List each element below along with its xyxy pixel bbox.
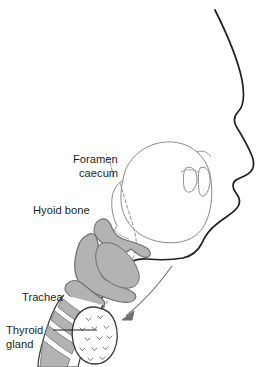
anatomy-diagram: Foramen caecum Hyoid bone Trachea Thyroi… — [0, 0, 260, 367]
tongue-outline — [109, 142, 212, 245]
anatomical-figure: Foramen caecum Hyoid bone Trachea Thyroi… — [0, 0, 260, 367]
label-foramen-caecum-line1: Foramen — [73, 153, 118, 165]
label-hyoid-bone: Hyoid bone — [33, 204, 90, 216]
label-thyroid-gland-line2: gland — [6, 338, 33, 350]
label-trachea: Trachea — [22, 291, 63, 303]
label-foramen-caecum-line2: caecum — [79, 167, 118, 179]
thyroid-gland — [72, 307, 117, 364]
label-thyroid-gland-line1: Thyroid — [6, 324, 43, 336]
teeth-outline — [181, 167, 210, 196]
